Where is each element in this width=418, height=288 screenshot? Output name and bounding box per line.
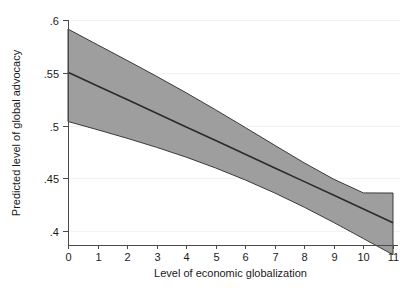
x-axis-title: Level of economic globalization: [154, 267, 307, 279]
x-tick-label: 7: [272, 251, 278, 263]
y-tick-label: .6: [50, 15, 59, 27]
chart-figure: 01234567891011 .4.45.5.55.6 Level of eco…: [0, 0, 418, 288]
x-tick-label: 6: [242, 251, 248, 263]
y-tick-label: .5: [50, 121, 59, 133]
x-tick-label: 2: [124, 251, 130, 263]
x-tick-label: 11: [388, 251, 399, 263]
x-tick-label: 10: [357, 251, 369, 263]
y-axis-title: Predicted level of global advocacy: [10, 49, 22, 216]
y-tick-label: .55: [44, 68, 59, 80]
x-tick-label: 5: [213, 251, 219, 263]
marginal-effects-plot: 01234567891011 .4.45.5.55.6 Level of eco…: [0, 0, 418, 288]
x-tick-label: 4: [183, 251, 189, 263]
x-tick-label: 8: [301, 251, 307, 263]
y-tick-label: .4: [50, 226, 59, 238]
x-tick-label: 1: [95, 251, 101, 263]
y-tick-label: .45: [44, 173, 59, 185]
x-tick-label: 3: [154, 251, 160, 263]
x-tick-label: 0: [65, 251, 71, 263]
x-tick-label: 9: [331, 251, 337, 263]
